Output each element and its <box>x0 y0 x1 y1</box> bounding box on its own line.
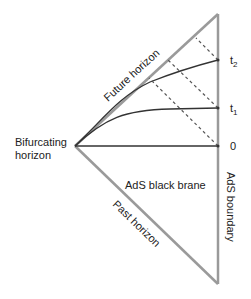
tick-label-t2: t2 <box>230 54 238 69</box>
slice-t2 <box>75 60 218 146</box>
tick-dot-t2 <box>217 59 220 62</box>
tick-dot-0 <box>217 145 220 148</box>
bifurcating-label-line1: Bifurcating <box>15 136 67 148</box>
ads-boundary-label: AdS boundary <box>225 172 237 242</box>
tick-label-0: 0 <box>230 140 236 152</box>
past-horizon-line <box>75 146 218 284</box>
dashed-ray-t2 <box>196 38 218 60</box>
dashed-ray-0 <box>149 78 218 146</box>
future-horizon-line <box>75 14 218 146</box>
tick-dot-t1 <box>217 107 220 110</box>
tick-label-t1: t1 <box>230 102 238 117</box>
region-label: AdS black brane <box>125 179 206 191</box>
bifurcating-label-line2: horizon <box>15 149 51 161</box>
penrose-diagram: Future horizon Past horizon Bifurcating … <box>0 0 251 299</box>
